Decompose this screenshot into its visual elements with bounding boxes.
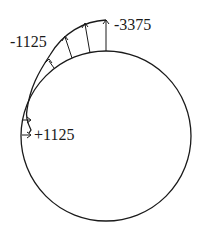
label-top-pressure: -3375: [114, 16, 151, 33]
pressure-diagram: -3375 -1125 +1125: [0, 0, 198, 237]
label-left-pressure: +1125: [34, 126, 74, 143]
label-upper-left-pressure: -1125: [10, 33, 47, 50]
suction-arrows: [45, 20, 109, 68]
